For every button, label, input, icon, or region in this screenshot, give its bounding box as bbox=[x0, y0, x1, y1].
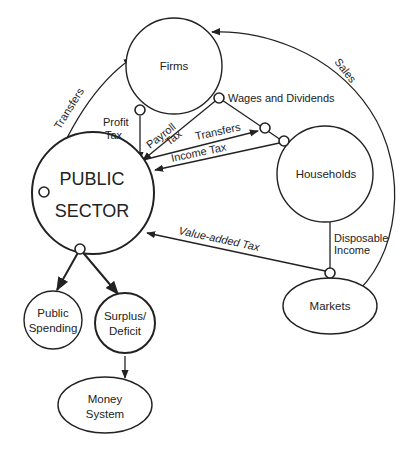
port-households-income bbox=[279, 136, 289, 146]
label-transfers-to-firms: Transfers bbox=[52, 85, 87, 131]
label-profit-tax-2: Tax bbox=[105, 129, 123, 141]
label-disposable-income-2: Income bbox=[334, 244, 370, 256]
node-households-label: Households bbox=[296, 168, 357, 180]
port-public-sector-left bbox=[39, 187, 49, 197]
node-firms-label: Firms bbox=[160, 60, 189, 72]
node-public-spending-label-1: Public bbox=[37, 307, 69, 319]
port-public-sector-bottom bbox=[75, 244, 85, 254]
node-public-sector-label-1: PUBLIC bbox=[59, 169, 124, 189]
edge-to-public-spending bbox=[57, 249, 80, 290]
node-households: Households bbox=[277, 126, 373, 222]
edge-to-surplus-deficit bbox=[80, 249, 118, 294]
node-money-system: Money System bbox=[58, 377, 152, 433]
node-public-sector: PUBLIC bbox=[32, 132, 154, 254]
port-markets-top bbox=[325, 268, 335, 278]
label-disposable-income-1: Disposable bbox=[334, 232, 388, 244]
node-surplus-deficit: Surplus/ Deficit bbox=[95, 293, 155, 353]
port-firms-wages bbox=[214, 93, 224, 103]
node-public-spending: Public Spending bbox=[24, 291, 82, 349]
node-public-spending-label-2: Spending bbox=[29, 322, 78, 334]
label-transfers-to-households: Transfers bbox=[194, 121, 242, 142]
label-profit-tax-1: Profit bbox=[103, 116, 129, 128]
node-money-system-label-2: System bbox=[86, 408, 124, 420]
node-money-system-label-1: Money bbox=[88, 393, 123, 405]
port-households-transfers bbox=[260, 123, 270, 133]
edge-wages-and-dividends bbox=[219, 98, 284, 142]
node-public-sector-label-2: SECTOR bbox=[55, 201, 130, 221]
node-firms: Firms bbox=[126, 18, 222, 114]
node-surplus-deficit-label-2: Deficit bbox=[109, 325, 142, 337]
port-firms-profit bbox=[135, 105, 145, 115]
node-markets-label: Markets bbox=[310, 300, 351, 312]
node-markets: Markets bbox=[283, 278, 377, 334]
label-wages-and-dividends: Wages and Dividends bbox=[228, 92, 335, 104]
public-sector-flow-diagram: Firms Households PUBLIC SECTOR Markets P… bbox=[0, 0, 420, 456]
node-surplus-deficit-label-1: Surplus/ bbox=[104, 310, 147, 322]
